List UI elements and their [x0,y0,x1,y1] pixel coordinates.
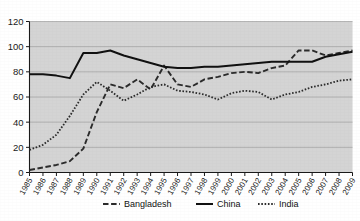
chart-canvas: 020406080100120 198519861987198819891990… [0,0,360,221]
y-axis-tick-label: 20 [13,142,24,153]
legend-label-china: China [217,199,241,209]
y-axis-tick-label: 120 [8,16,24,27]
y-axis-tick-label: 60 [13,91,24,102]
line-chart: 020406080100120 198519861987198819891990… [0,0,360,221]
y-axis-tick-label: 40 [13,117,24,128]
legend-label-bangladesh: Bangladesh [124,199,172,209]
y-axis-tick-label: 0 [18,167,23,178]
y-axis-tick-label: 100 [8,41,24,52]
y-axis-tick-label: 80 [13,66,24,77]
legend-label-india: India [279,199,299,209]
